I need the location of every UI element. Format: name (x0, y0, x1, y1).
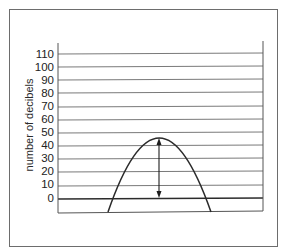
grid-lines (58, 53, 263, 186)
gridline-50 (58, 132, 263, 133)
gridline-110 (58, 53, 263, 54)
gridline-20 (58, 171, 263, 172)
gridline-60 (58, 119, 263, 120)
bottom-axis (58, 211, 263, 213)
gridline-100 (58, 66, 263, 67)
arrowhead-up-icon (157, 138, 162, 145)
gridline-90 (58, 79, 263, 80)
gridline-40 (58, 145, 263, 146)
gridline-10 (58, 185, 263, 186)
gridline-80 (58, 92, 263, 93)
baseline-zero (58, 198, 263, 199)
arrowhead-down-icon (157, 191, 162, 198)
gridline-70 (58, 106, 263, 107)
gridline-30 (58, 158, 263, 159)
amplitude-arrow (157, 138, 162, 198)
chart-plot-area (0, 0, 287, 252)
